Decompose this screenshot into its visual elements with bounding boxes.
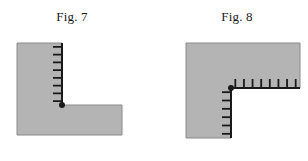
figure-page: Fig. 7 Fig. 8 xyxy=(0,0,308,161)
figure-7-diagram xyxy=(17,43,122,135)
figure-8-diagram xyxy=(186,43,300,138)
figures-canvas xyxy=(0,0,308,161)
fig-8-region xyxy=(186,43,300,138)
fig-8-corner-dot xyxy=(228,85,234,91)
fig-7-corner-dot xyxy=(59,102,65,108)
fig-7-region xyxy=(17,43,122,135)
